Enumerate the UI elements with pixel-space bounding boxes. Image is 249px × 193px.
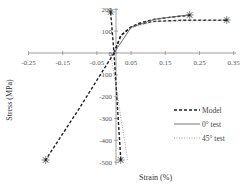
stress-strain-chart: -0.25-0.15-0.050.050.150.250.35 2001000-… bbox=[0, 0, 249, 193]
legend-45deg: 45° test bbox=[202, 134, 226, 143]
legend: Model 0° test 45° test bbox=[174, 106, 226, 143]
legend-0deg: 0° test bbox=[202, 120, 222, 129]
svg-text:100: 100 bbox=[102, 28, 113, 36]
svg-text:-400: -400 bbox=[99, 137, 112, 145]
y-axis-label: Stress (MPa) bbox=[5, 79, 14, 121]
svg-text:✳: ✳ bbox=[116, 154, 125, 166]
svg-text:-0.05: -0.05 bbox=[90, 59, 105, 67]
svg-text:0.25: 0.25 bbox=[193, 59, 206, 67]
svg-text:-0.15: -0.15 bbox=[55, 59, 70, 67]
svg-text:-300: -300 bbox=[99, 115, 112, 123]
svg-text:✳: ✳ bbox=[185, 9, 194, 21]
svg-text:✳: ✳ bbox=[106, 6, 115, 18]
svg-text:0.05: 0.05 bbox=[125, 59, 138, 67]
svg-text:-0.25: -0.25 bbox=[21, 59, 36, 67]
svg-text:✳: ✳ bbox=[41, 154, 50, 166]
legend-model: Model bbox=[202, 106, 222, 115]
svg-text:✳: ✳ bbox=[222, 14, 231, 26]
x-ticks: -0.25-0.15-0.050.050.150.250.35 bbox=[21, 51, 240, 67]
y-ticks: 2001000-100-200-300-400-500 bbox=[99, 6, 118, 167]
svg-text:-500: -500 bbox=[99, 159, 112, 167]
svg-text:0.35: 0.35 bbox=[228, 59, 241, 67]
x-axis-label: Strain (%) bbox=[139, 173, 172, 182]
svg-text:0.15: 0.15 bbox=[159, 59, 172, 67]
svg-text:-200: -200 bbox=[99, 93, 112, 101]
svg-text:-100: -100 bbox=[99, 71, 112, 79]
